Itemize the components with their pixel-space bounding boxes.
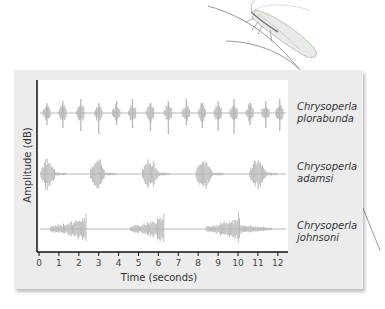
x-tick-label: 9 bbox=[215, 258, 221, 268]
x-tick-label: 1 bbox=[56, 258, 62, 268]
x-tick-label: 5 bbox=[136, 258, 142, 268]
x-tick-label: 4 bbox=[116, 258, 122, 268]
species-label-johnsoni: Chrysoperla johnsoni bbox=[297, 220, 357, 244]
x-tick-label: 6 bbox=[156, 258, 162, 268]
y-axis-label: Amplitude (dB) bbox=[22, 127, 33, 202]
x-axis-label: Time (seconds) bbox=[121, 272, 197, 283]
species-label-plorabunda: Chrysoperla plorabunda bbox=[297, 101, 357, 125]
x-tick-label: 10 bbox=[232, 258, 243, 268]
x-tick-label: 2 bbox=[76, 258, 82, 268]
x-tick-label: 11 bbox=[252, 258, 263, 268]
x-tick-label: 0 bbox=[36, 258, 42, 268]
species-label-adamsi: Chrysoperla adamsi bbox=[297, 161, 357, 185]
x-tick-label: 7 bbox=[175, 258, 181, 268]
x-tick-label: 3 bbox=[96, 258, 102, 268]
x-tick-label: 12 bbox=[272, 258, 283, 268]
x-tick-label: 8 bbox=[195, 258, 201, 268]
